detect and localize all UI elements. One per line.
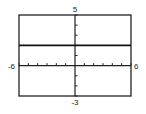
graph-window: 5 -3 -6 6 <box>0 0 146 114</box>
y-min-label: -3 <box>71 98 79 107</box>
x-max-label: 6 <box>134 62 139 71</box>
y-max-label: 5 <box>73 5 78 14</box>
axes <box>19 15 131 96</box>
x-min-label: -6 <box>8 62 16 71</box>
